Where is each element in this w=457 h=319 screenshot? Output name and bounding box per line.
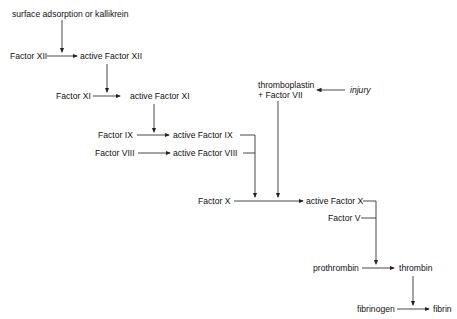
node-factor-xi: Factor XI (56, 91, 91, 101)
node-factor-ix: Factor IX (98, 130, 133, 140)
node-factor-vii: + Factor VII (258, 90, 303, 100)
node-active-factor-viii: active Factor VIII (173, 148, 237, 158)
node-factor-viii: Factor VIII (95, 148, 135, 158)
node-fibrin: fibrin (433, 304, 452, 314)
node-fibrinogen: fibrinogen (357, 304, 395, 314)
node-active-factor-x: active Factor X (306, 196, 363, 206)
node-factor-x: Factor X (198, 196, 230, 206)
node-factor-v: Factor V (328, 213, 360, 223)
node-active-factor-xii: active Factor XII (80, 51, 142, 61)
node-factor-xii: Factor XII (10, 51, 47, 61)
node-thrombin: thrombin (399, 263, 432, 273)
node-injury: injury (350, 85, 371, 95)
node-active-factor-ix: active Factor IX (173, 130, 233, 140)
node-prothrombin: prothrombin (313, 263, 359, 273)
node-active-factor-xi: active Factor XI (130, 91, 190, 101)
diagram-connectors (0, 0, 457, 319)
node-thromboplastin: thromboplastin (258, 80, 314, 90)
node-surface-adsorption: surface adsorption or kallikrein (12, 9, 129, 19)
